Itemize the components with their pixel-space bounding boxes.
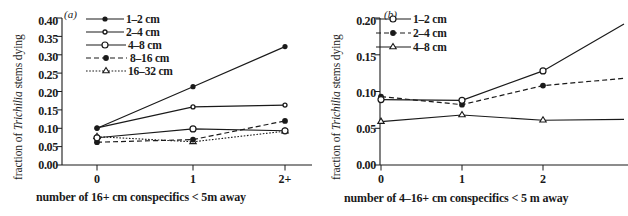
panel-b-axes [375,18,628,171]
panel-b-legend [376,16,411,49]
panel-b-series-2-4cm [378,78,624,107]
panel-a-plot [0,0,314,216]
panel-b-series-1-2cm [378,24,624,103]
panel-b-legend-marker-1 [390,16,396,22]
panel-b-legend-marker-2 [390,30,396,36]
chart-panel-a: (a) fraction of Trichilia stems dying 0.… [0,0,314,216]
panel-a-series-1-2cm [94,44,287,131]
panel-a-legend [86,16,127,72]
figure-container: (a) fraction of Trichilia stems dying 0.… [0,0,628,216]
panel-b-series-4-8cm [378,112,624,124]
panel-a-legend-marker-4 [103,55,109,61]
panel-a-axes [57,18,313,171]
panel-b-plot [314,0,628,216]
panel-a-legend-marker-2 [103,30,107,34]
panel-b-legend-marker-3 [390,44,396,49]
panel-a-legend-marker-5 [103,68,109,73]
panel-a-legend-marker-3 [102,42,108,48]
panel-a-legend-marker-1 [102,16,107,21]
chart-panel-b: (b) fraction of Trichilia stems dying 0.… [314,0,628,216]
